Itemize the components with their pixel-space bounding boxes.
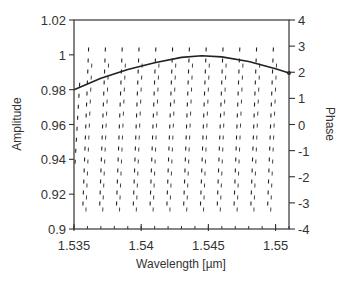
phase-segment <box>251 44 257 206</box>
y2-tick-label: -1 <box>298 144 310 159</box>
x-tick-label: 1.55 <box>263 238 288 253</box>
phase-segment <box>83 44 89 206</box>
amplitude-phase-chart: 1.5351.541.5451.55 1.0210.980.960.940.92… <box>0 0 345 282</box>
y-tick-label: 0.92 <box>41 187 66 202</box>
y2-tick-label: -2 <box>298 170 310 185</box>
y-tick-label: 0.9 <box>48 222 66 237</box>
phase-segment <box>200 44 206 206</box>
x-tick-label: 1.54 <box>129 238 154 253</box>
y-tick-label: 0.98 <box>41 83 66 98</box>
y-axis-title: Amplitude <box>10 97 24 151</box>
y2-tick-label: 1 <box>298 91 305 106</box>
phase-segment <box>184 44 190 206</box>
phase-segment <box>150 44 156 206</box>
x-axis-title: Wavelength [µm] <box>136 257 226 271</box>
x-tick-label: 1.545 <box>192 238 225 253</box>
y2-tick-label: 2 <box>298 65 305 80</box>
y2-axis-title: Phase <box>323 107 337 141</box>
phase-segment <box>234 44 240 206</box>
y-tick-label: 1 <box>59 48 66 63</box>
y2-tick-label: -3 <box>298 196 310 211</box>
phase-segment <box>217 44 223 206</box>
y-axis-amplitude: 1.0210.980.960.940.920.9 <box>41 13 74 237</box>
x-tick-label: 1.535 <box>58 238 91 253</box>
y-tick-label: 0.96 <box>41 118 66 133</box>
y2-tick-label: 3 <box>298 39 305 54</box>
amplitude-series <box>74 56 291 90</box>
x-axis: 1.5351.541.5451.55 <box>58 224 289 253</box>
phase-series <box>75 44 277 212</box>
y-tick-label: 1.02 <box>41 13 66 28</box>
y2-tick-label: 0 <box>298 118 305 133</box>
phase-segment <box>100 44 106 206</box>
y2-tick-label: -4 <box>298 222 310 237</box>
y-tick-label: 0.94 <box>41 152 66 167</box>
y-axis-phase: 43210-1-2-3-4 <box>289 13 310 237</box>
phase-segment <box>116 44 122 206</box>
phase-segment <box>167 44 173 206</box>
y2-tick-label: 4 <box>298 13 305 28</box>
